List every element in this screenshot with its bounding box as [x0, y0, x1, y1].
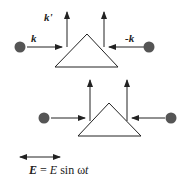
right-particle-dot [144, 42, 155, 53]
right-particle-dot-bottom [166, 113, 177, 124]
prism-triangle [55, 34, 118, 67]
label-k: k [31, 33, 37, 44]
equation-sin: sin [60, 163, 74, 177]
equation-equals: = [40, 163, 47, 177]
equation-amplitude: E [50, 163, 57, 177]
label-k-prime: k' [44, 12, 53, 23]
left-particle-dot-bottom [39, 113, 50, 124]
left-particle-dot [15, 42, 26, 53]
bottom-configuration [39, 80, 177, 136]
equation-lhs: E [29, 163, 37, 177]
equation-t: t [85, 163, 88, 177]
field-equation: E = E sin ωt [29, 164, 88, 176]
equation-omega: ω [77, 163, 85, 177]
diagram-canvas [0, 0, 190, 182]
prism-triangle-bottom [78, 103, 141, 136]
label-minus-k: -k [125, 33, 134, 44]
